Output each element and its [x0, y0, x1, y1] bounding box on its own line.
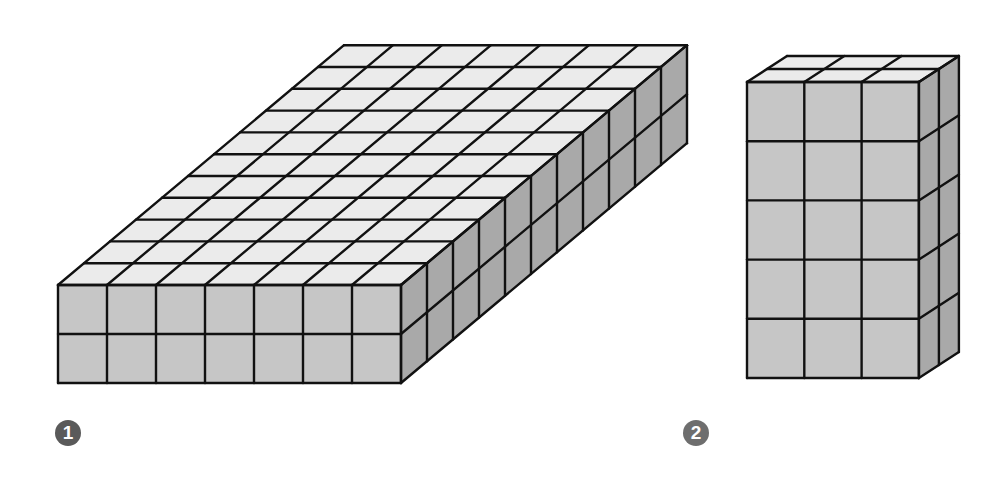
figure-1-number-badge: 1 — [55, 420, 81, 446]
diagram-canvas — [0, 0, 1004, 492]
figure-1-prism-7x11x2 — [58, 45, 687, 383]
figure-2-number-badge: 2 — [683, 420, 709, 446]
figure-2-prism-3x2x5 — [747, 56, 959, 378]
front-face — [747, 82, 919, 378]
